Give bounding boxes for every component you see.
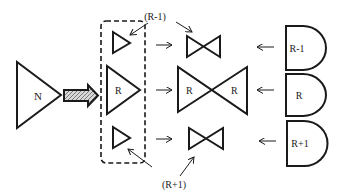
group-node-r-label: R	[115, 85, 122, 96]
group-node-r-minus-1	[113, 32, 130, 53]
receiver-label: R	[296, 90, 303, 101]
bowtie-right-label: R	[231, 85, 238, 96]
receiver-label: R-1	[290, 43, 305, 54]
hatched-transfer-arrow	[64, 85, 98, 106]
receiver-r-minus-1: R-1	[286, 26, 326, 70]
callout-bottom: (R+1)	[128, 149, 194, 191]
bowtie-r-plus-1	[189, 128, 223, 149]
bowtie-r-minus-1	[187, 36, 220, 57]
small-triangle-icon	[113, 32, 130, 53]
pointer-arrow-icon	[180, 157, 194, 176]
callout-top: (R-1)	[130, 11, 192, 35]
bowtie-left-label: R	[186, 85, 193, 96]
receiver-r: R	[286, 74, 326, 116]
callout-top-label: (R-1)	[144, 11, 166, 23]
bowtie-icon	[187, 36, 220, 57]
diagram-canvas: N R R R	[0, 0, 340, 194]
callout-bottom-label: (R+1)	[162, 179, 186, 191]
bowtie-icon	[189, 128, 223, 149]
source-node-n: N	[17, 62, 61, 128]
d-shape-icon	[286, 74, 326, 116]
block-arrow-icon	[64, 85, 98, 106]
group-node-r: R	[107, 66, 140, 114]
triangle-icon	[107, 66, 140, 114]
small-triangle-icon	[113, 127, 130, 148]
source-node-label: N	[34, 90, 42, 102]
pointer-arrow-icon	[176, 22, 192, 32]
group-node-r-plus-1	[113, 127, 130, 148]
receiver-r-plus-1: R+1	[287, 121, 328, 166]
pointer-arrow-icon	[128, 149, 152, 167]
bowtie-r: R R	[178, 67, 247, 114]
receiver-label: R+1	[291, 138, 308, 149]
